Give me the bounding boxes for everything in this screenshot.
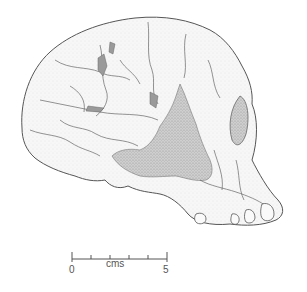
scale-bar: 0 cms 5 (60, 250, 180, 280)
scale-end-label: 5 (163, 265, 169, 275)
skull-illustration (0, 0, 307, 235)
scale-unit-label: cms (106, 259, 124, 269)
figure: 0 cms 5 (0, 0, 307, 292)
scale-start-label: 0 (69, 265, 75, 275)
